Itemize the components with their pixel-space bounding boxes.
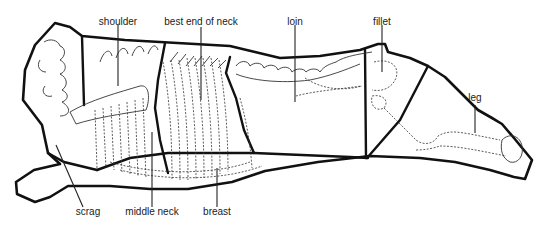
label-scrag: scrag (76, 206, 100, 218)
carcass-outline (16, 23, 532, 202)
label-breast: breast (203, 206, 231, 218)
neck-bones (38, 40, 68, 116)
cut-loin-fillet (365, 50, 366, 158)
label-middle-neck: middle neck (125, 206, 178, 218)
leader-scrag (56, 145, 83, 207)
lamb-carcass-diagram (0, 0, 548, 226)
label-loin: loin (287, 16, 303, 28)
label-best-end-of-neck: best end of neck (164, 16, 237, 28)
cut-fillet-leg (367, 66, 428, 158)
shoulder-blade (70, 86, 148, 124)
label-shoulder: shoulder (99, 16, 137, 28)
label-fillet: fillet (373, 16, 391, 28)
cut-best-end-loin (226, 57, 254, 153)
label-leg: leg (468, 92, 481, 104)
leg-bones (372, 61, 523, 162)
cut-shoulder-vertical (82, 36, 84, 105)
